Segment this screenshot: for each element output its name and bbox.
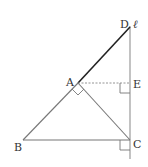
label-A: A <box>65 76 75 89</box>
label-B: B <box>14 141 22 154</box>
segment-AB <box>23 83 78 140</box>
label-C: C <box>133 138 141 151</box>
label-line-l: ℓ <box>133 18 138 31</box>
right-angle-mark-A <box>72 89 84 95</box>
label-E: E <box>133 78 141 91</box>
right-angle-mark-E <box>120 83 130 93</box>
label-D: D <box>120 18 129 31</box>
geometry-diagram: D ℓ A E B C <box>0 0 148 167</box>
segment-AC <box>78 83 130 140</box>
segment-AD <box>78 27 130 83</box>
right-angle-mark-C <box>120 140 130 150</box>
